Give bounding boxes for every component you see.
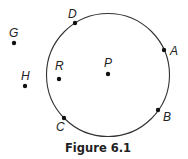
point-b — [156, 108, 160, 112]
point-p — [106, 72, 110, 76]
figure-caption: Figure 6.1 — [65, 141, 131, 155]
label-h: H — [21, 69, 30, 83]
label-b: B — [163, 110, 171, 124]
label-r: R — [55, 59, 64, 73]
circle-diagram: D A B C P R G H Figure 6.1 — [0, 0, 188, 159]
label-c: C — [56, 120, 65, 134]
label-d: D — [68, 7, 77, 21]
label-p: P — [104, 56, 112, 70]
point-d — [73, 21, 77, 25]
point-h — [23, 84, 27, 88]
label-a: A — [169, 44, 178, 58]
label-g: G — [9, 26, 18, 40]
point-r — [57, 77, 61, 81]
point-g — [12, 41, 16, 45]
point-a — [162, 48, 166, 52]
